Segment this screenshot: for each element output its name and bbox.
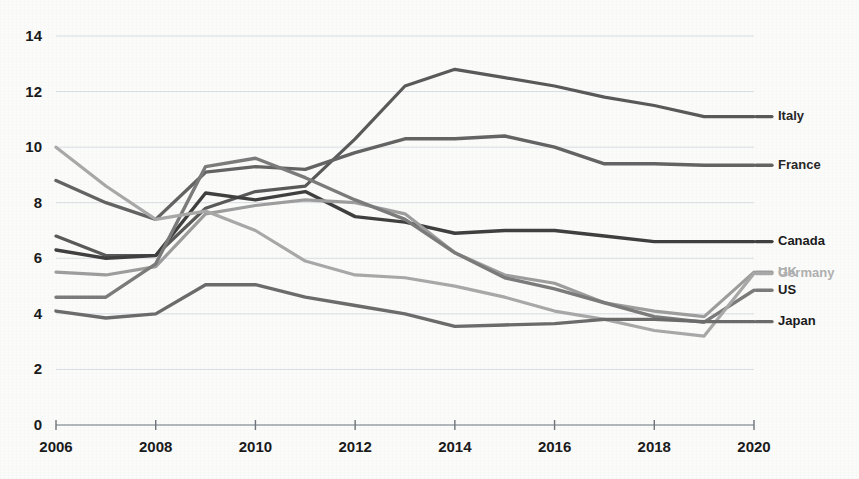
series-label-us: US xyxy=(778,282,796,297)
x-tick-label-2014: 2014 xyxy=(438,438,472,455)
chart-background xyxy=(0,0,859,479)
line-chart-svg: 02468101214 2006200820102012201420162018… xyxy=(0,0,859,479)
y-tick-label-0: 0 xyxy=(34,416,42,433)
y-tick-label-6: 6 xyxy=(34,249,42,266)
series-label-japan: Japan xyxy=(778,313,816,328)
series-label-germany: Germany xyxy=(778,265,835,280)
x-tick-label-2008: 2008 xyxy=(139,438,172,455)
y-tick-label-12: 12 xyxy=(25,83,42,100)
x-tick-label-2006: 2006 xyxy=(39,438,72,455)
y-tick-label-10: 10 xyxy=(25,138,42,155)
x-tick-label-2010: 2010 xyxy=(239,438,272,455)
x-tick-label-2016: 2016 xyxy=(538,438,571,455)
x-tick-label-2012: 2012 xyxy=(338,438,371,455)
series-label-italy: Italy xyxy=(778,108,805,123)
series-label-canada: Canada xyxy=(778,233,826,248)
x-tick-label-2020: 2020 xyxy=(737,438,770,455)
series-label-france: France xyxy=(778,157,821,172)
x-tick-label-2018: 2018 xyxy=(638,438,671,455)
y-tick-label-2: 2 xyxy=(34,360,42,377)
y-tick-label-4: 4 xyxy=(34,305,43,322)
y-tick-label-8: 8 xyxy=(34,194,42,211)
chart-figure: 02468101214 2006200820102012201420162018… xyxy=(0,0,859,479)
y-tick-label-14: 14 xyxy=(25,27,42,44)
